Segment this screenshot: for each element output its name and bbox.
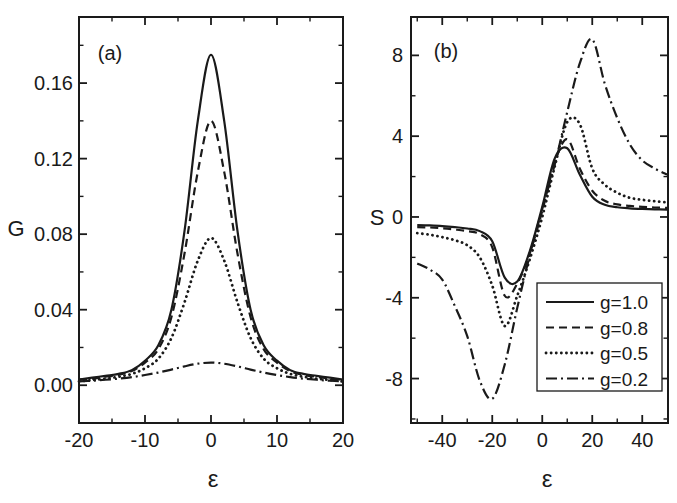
panel-b-x-axis-title: ε	[542, 465, 553, 492]
panel-a-y-tick-label: 0.16	[34, 72, 73, 94]
panel-b-x-tick-label: 0	[537, 429, 548, 451]
figure-canvas: -20-10010200.000.040.080.120.16(a)Gε-40-…	[0, 0, 677, 503]
panel-a-x-tick-label: -10	[131, 429, 160, 451]
panel-a-y-tick-label: 0.00	[34, 374, 73, 396]
panel-a-series-g-0-2	[79, 363, 343, 382]
panel-b-x-tick-label: 20	[581, 429, 603, 451]
panel-b-x-tick-label: 40	[631, 429, 653, 451]
panel-b: -40-2002040-8-4048(b)Sεg=1.0g=0.8g=0.5g=…	[370, 17, 668, 492]
panel-a-series-g-1-0	[79, 55, 343, 380]
panel-a-x-axis-title: ε	[208, 465, 219, 492]
legend: g=1.0g=0.8g=0.5g=0.2	[537, 283, 662, 391]
panel-b-y-tick-label: 8	[392, 44, 403, 66]
panel-b-y-tick-label: 0	[392, 206, 403, 228]
panel-b-series-g-0-8	[417, 139, 667, 297]
panel-b-x-tick-label: -20	[478, 429, 507, 451]
panel-b-x-tick-label: -40	[428, 429, 457, 451]
legend-label: g=0.2	[600, 369, 648, 390]
panel-b-y-axis-title: S	[370, 205, 385, 230]
panel-a-x-tick-label: 10	[266, 429, 288, 451]
panel-a: -20-10010200.000.040.080.120.16(a)Gε	[7, 17, 354, 492]
legend-label: g=0.8	[600, 318, 648, 339]
panel-a-series-g-0-5	[79, 238, 343, 382]
panel-a-x-tick-label: 0	[205, 429, 216, 451]
panel-a-x-tick-label: 20	[332, 429, 354, 451]
panel-a-y-axis-title: G	[7, 216, 24, 241]
panel-a-y-tick-label: 0.12	[34, 148, 73, 170]
legend-label: g=1.0	[600, 292, 648, 313]
panel-a-y-tick-label: 0.08	[34, 223, 73, 245]
panel-b-corner-label: (b)	[434, 40, 458, 62]
panel-b-y-tick-label: -8	[385, 368, 403, 390]
panel-a-x-tick-label: -20	[65, 429, 94, 451]
two-panel-line-figure: -20-10010200.000.040.080.120.16(a)Gε-40-…	[0, 0, 677, 503]
panel-a-corner-label: (a)	[98, 42, 122, 64]
panel-b-y-tick-label: 4	[392, 125, 403, 147]
panel-a-y-tick-label: 0.04	[34, 299, 73, 321]
panel-a-series-g-0-8	[79, 121, 343, 380]
legend-label: g=0.5	[600, 343, 648, 364]
panel-b-y-tick-label: -4	[385, 287, 403, 309]
